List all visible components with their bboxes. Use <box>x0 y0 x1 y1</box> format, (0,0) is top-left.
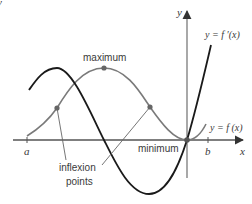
f-prime-curve-label: y = f ′(x) <box>204 29 240 41</box>
minimum-point <box>184 137 190 143</box>
inflexion-leader-left <box>57 108 66 160</box>
inflexion-leader-right <box>102 107 150 165</box>
maximum-point <box>101 65 106 70</box>
derivative-diagram: y maximum minimum inflexion points a b x… <box>0 0 252 204</box>
minimum-label: minimum <box>138 143 179 154</box>
tick-label-b: b <box>205 145 211 157</box>
inflexion-label-line1: inflexion <box>59 162 96 173</box>
x-axis-label: x <box>239 145 245 157</box>
inflexion-label-line2: points <box>66 176 93 187</box>
inflexion-point-right <box>147 104 152 109</box>
maximum-label: maximum <box>83 52 126 63</box>
tick-label-a: a <box>24 145 30 157</box>
f-curve <box>27 68 206 140</box>
inflexion-point-left <box>54 105 59 110</box>
f-curve-label: y = f (x) <box>209 122 243 134</box>
cropped-y-fragment: y <box>0 0 2 8</box>
f-prime-curve <box>29 45 211 194</box>
y-axis-label: y <box>176 6 182 18</box>
